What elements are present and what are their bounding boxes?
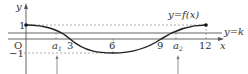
graph-diagram: y x O 1 −1 3 6 9 12 a1 a2 y=f(x) y=k	[0, 0, 248, 74]
y-tick-neg1: −1	[9, 48, 24, 59]
x-tick-3: 3	[67, 40, 73, 51]
line-k-label: y=k	[223, 26, 244, 37]
x-tick-12: 12	[199, 40, 212, 51]
y-axis-arrow-icon	[24, 3, 28, 9]
y-tick-1: 1	[19, 20, 25, 31]
a1-label: a1	[52, 40, 62, 52]
a2-label: a2	[173, 40, 183, 52]
a1-arrowhead-icon	[56, 55, 59, 59]
x-axis-label: x	[220, 40, 226, 51]
curve-end-point	[204, 23, 208, 27]
y-axis-label: y	[15, 1, 22, 12]
curve-label: y=f(x)	[167, 9, 199, 20]
a2-arrowhead-icon	[177, 55, 180, 59]
x-tick-9: 9	[157, 40, 163, 51]
x-tick-6: 6	[109, 40, 115, 51]
